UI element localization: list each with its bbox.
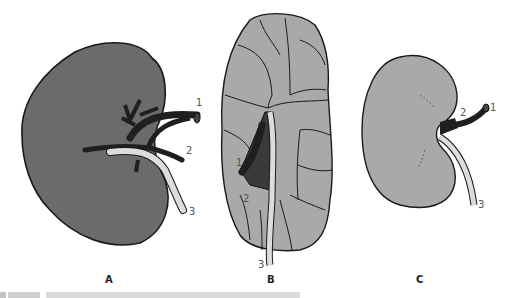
callout-a-1: 1 [196,97,202,108]
callout-c-1: 1 [490,102,496,113]
callout-c-3: 3 [478,199,484,210]
panel-c-kidney: 1 2 3 [362,56,496,210]
kidney-figure: 1 2 3 1 2 3 1 2 3 [0,0,505,298]
panel-label-b: B [267,274,275,285]
callout-a-3: 3 [189,206,195,217]
callout-b-3: 3 [258,259,264,270]
callout-b-2: 2 [243,193,249,204]
callout-b-1: 1 [236,157,242,168]
callout-a-2: 2 [186,145,192,156]
figure-caption-cutoff [0,292,300,298]
panel-label-c: C [416,274,423,285]
panel-label-a: A [105,274,113,285]
panel-a-kidney: 1 2 3 [22,43,202,245]
callout-c-2: 2 [460,107,466,118]
panel-b-kidney: 1 2 3 [222,14,333,270]
